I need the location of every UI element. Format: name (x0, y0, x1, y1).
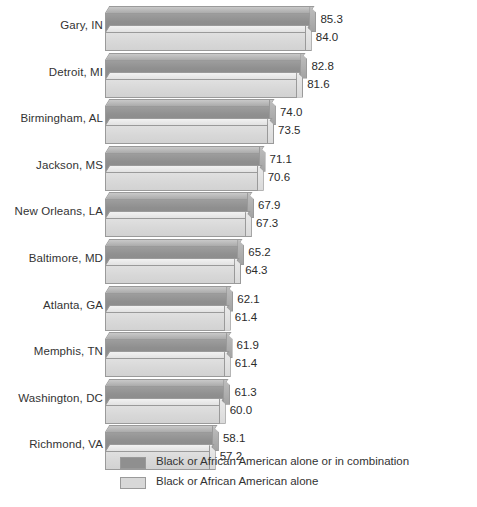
bar-top-face (105, 286, 232, 293)
bar-front-face (105, 218, 246, 237)
bar-series-1 (105, 192, 255, 211)
category-label: Gary, IN (0, 19, 103, 31)
bar-front-face (105, 125, 268, 144)
bar-top-face (105, 118, 272, 125)
value-label: 58.1 (223, 432, 245, 444)
value-label: 82.8 (311, 60, 333, 72)
value-label: 61.9 (237, 339, 259, 351)
bar-end-cap (296, 72, 303, 98)
bar-top-face (105, 99, 274, 106)
bar-top-face (105, 239, 243, 246)
value-label: 71.1 (270, 153, 292, 165)
bar-top-face (105, 379, 229, 386)
value-label: 84.0 (316, 31, 338, 43)
bar-end-cap (219, 398, 226, 424)
value-label: 61.4 (235, 357, 257, 369)
bar-series-2 (105, 211, 253, 230)
category-label: Washington, DC (0, 392, 103, 404)
bar-top-face (105, 6, 315, 13)
category-label: Baltimore, MD (0, 252, 103, 264)
bar-top-face (105, 25, 310, 32)
category-label: Detroit, MI (0, 66, 103, 78)
bar-series-2 (105, 165, 265, 184)
bar-series-2 (105, 305, 232, 324)
bar-series-2 (105, 398, 227, 417)
bar-series-2 (105, 118, 275, 137)
bar-series-1 (105, 286, 234, 305)
bar-front-face (105, 358, 225, 377)
bar-chart: Gary, IN85.384.0Detroit, MI82.881.6Birmi… (0, 0, 477, 507)
bar-end-cap (267, 118, 274, 144)
bar-top-face (105, 398, 224, 405)
bar-top-face (105, 332, 231, 339)
bar-series-2 (105, 258, 242, 277)
chart-row: Atlanta, GA62.161.4 (0, 286, 477, 333)
bar-series-1 (105, 146, 267, 165)
bar-series-2 (105, 72, 304, 91)
value-label: 70.6 (268, 171, 290, 183)
bar-series-1 (105, 425, 220, 444)
bar-front-face (105, 405, 220, 424)
value-label: 61.3 (234, 386, 256, 398)
value-label: 81.6 (307, 78, 329, 90)
value-label: 62.1 (237, 293, 259, 305)
value-label: 74.0 (280, 106, 302, 118)
category-label: New Orleans, LA (0, 205, 103, 217)
bar-series-1 (105, 6, 317, 25)
category-label: Jackson, MS (0, 159, 103, 171)
bar-front-face (105, 265, 235, 284)
bar-series-1 (105, 99, 277, 118)
chart-row: Washington, DC61.360.0 (0, 379, 477, 426)
bar-end-cap (245, 211, 252, 237)
bar-series-2 (105, 25, 313, 44)
bar-front-face (105, 172, 258, 191)
value-label: 64.3 (245, 264, 267, 276)
chart-legend: Black or African American alone or in co… (120, 455, 477, 495)
chart-row: Memphis, TN61.961.4 (0, 332, 477, 379)
bar-top-face (105, 146, 264, 153)
legend-swatch-icon (120, 477, 146, 489)
legend-label: Black or African American alone (156, 475, 318, 487)
bar-front-face (105, 79, 297, 98)
category-label: Atlanta, GA (0, 299, 103, 311)
bar-end-cap (257, 165, 264, 191)
bar-top-face (105, 192, 252, 199)
bar-top-face (105, 211, 250, 218)
value-label: 60.0 (230, 404, 252, 416)
bar-front-face (105, 312, 225, 331)
bar-top-face (105, 53, 306, 60)
value-label: 67.9 (258, 199, 280, 211)
chart-row: Jackson, MS71.170.6 (0, 146, 477, 193)
category-label: Memphis, TN (0, 345, 103, 357)
bar-top-face (105, 444, 214, 451)
bar-front-face (105, 32, 306, 51)
value-label: 67.3 (256, 217, 278, 229)
value-label: 73.5 (278, 124, 300, 136)
legend-label: Black or African American alone or in co… (156, 455, 409, 467)
bar-top-face (105, 258, 239, 265)
chart-row: Detroit, MI82.881.6 (0, 53, 477, 100)
category-label: Birmingham, AL (0, 112, 103, 124)
bar-series-1 (105, 53, 308, 72)
bar-series-1 (105, 239, 245, 258)
chart-row: Birmingham, AL74.073.5 (0, 99, 477, 146)
bar-end-cap (234, 258, 241, 284)
chart-row: New Orleans, LA67.967.3 (0, 192, 477, 239)
legend-item[interactable]: Black or African American alone or in co… (120, 455, 477, 472)
bar-top-face (105, 305, 229, 312)
legend-swatch-icon (120, 457, 146, 469)
bar-series-1 (105, 332, 234, 351)
bar-top-face (105, 165, 262, 172)
bar-top-face (105, 351, 229, 358)
chart-row: Gary, IN85.384.0 (0, 6, 477, 53)
bar-end-cap (305, 25, 312, 51)
value-label: 65.2 (248, 246, 270, 258)
bar-top-face (105, 425, 217, 432)
category-label: Richmond, VA (0, 438, 103, 450)
value-label: 85.3 (320, 13, 342, 25)
bar-series-1 (105, 379, 231, 398)
bar-end-cap (224, 305, 231, 331)
value-label: 61.4 (235, 311, 257, 323)
bar-series-2 (105, 351, 232, 370)
legend-item[interactable]: Black or African American alone (120, 475, 477, 492)
